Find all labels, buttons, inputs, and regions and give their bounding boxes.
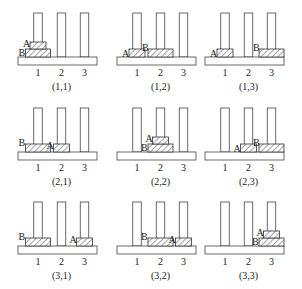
disk-A — [217, 49, 233, 57]
peg-number-3: 3 — [80, 257, 90, 267]
peg-1 — [221, 202, 230, 246]
state-caption: (3,2) — [141, 271, 181, 281]
base-board — [205, 246, 284, 254]
peg-number-2: 2 — [244, 163, 254, 173]
disk-B-label: B — [253, 138, 260, 148]
disk-B-label: B — [253, 43, 260, 53]
state-panel-1-3: AB123(1,3) — [187, 0, 287, 95]
disk-B — [26, 238, 51, 246]
base-board — [117, 246, 196, 254]
base-board — [18, 57, 97, 65]
state-panel-3-1: BA123(3,1) — [0, 189, 100, 284]
peg-2 — [244, 13, 253, 57]
state-panel-2-3: AB123(2,3) — [187, 95, 287, 190]
disk-B — [259, 49, 284, 57]
disk-A-label: A — [234, 144, 241, 154]
state-panel-2-2: BA123(2,2) — [99, 95, 199, 190]
puzzle-drawing — [0, 0, 100, 95]
peg-number-1: 1 — [220, 163, 230, 173]
peg-number-2: 2 — [57, 257, 67, 267]
state-caption: (3,1) — [42, 271, 82, 281]
peg-number-2: 2 — [156, 163, 166, 173]
disk-A — [264, 231, 280, 238]
puzzle-drawing — [187, 189, 287, 284]
peg-1 — [133, 108, 142, 152]
base-board — [205, 152, 284, 160]
state-caption: (1,2) — [141, 82, 181, 92]
peg-number-1: 1 — [220, 68, 230, 78]
disk-B — [259, 238, 284, 246]
disk-B-label: B — [252, 237, 259, 247]
state-caption: (2,1) — [42, 177, 82, 187]
puzzle-drawing — [99, 189, 199, 284]
state-panel-1-1: BA123(1,1) — [0, 0, 100, 95]
peg-number-2: 2 — [244, 68, 254, 78]
peg-number-2: 2 — [57, 163, 67, 173]
state-panel-3-2: BA123(3,2) — [99, 189, 199, 284]
disk-B — [148, 144, 173, 152]
peg-number-3: 3 — [80, 163, 90, 173]
peg-number-1: 1 — [33, 163, 43, 173]
state-panel-1-2: AB123(1,2) — [99, 0, 199, 95]
peg-number-1: 1 — [132, 257, 142, 267]
disk-B-label: B — [142, 43, 149, 53]
peg-number-1: 1 — [132, 163, 142, 173]
state-caption: (1,3) — [229, 82, 269, 92]
peg-number-2: 2 — [244, 257, 254, 267]
disk-A-label: A — [122, 49, 129, 59]
peg-number-3: 3 — [267, 257, 277, 267]
peg-3 — [80, 13, 89, 57]
disk-A-label: A — [146, 134, 153, 144]
puzzle-drawing — [99, 0, 199, 95]
state-caption: (3,3) — [229, 271, 269, 281]
base-board — [18, 246, 97, 254]
peg-number-1: 1 — [33, 68, 43, 78]
disk-B — [26, 49, 51, 57]
disk-B-label: B — [19, 138, 26, 148]
peg-3 — [80, 108, 89, 152]
peg-number-2: 2 — [156, 68, 166, 78]
peg-number-1: 1 — [132, 68, 142, 78]
puzzle-drawing — [187, 0, 287, 95]
disk-A-label: A — [169, 235, 176, 245]
peg-number-1: 1 — [33, 257, 43, 267]
disk-A-label: A — [70, 235, 77, 245]
disk-B-label: B — [19, 48, 26, 58]
puzzle-drawing — [0, 189, 100, 284]
base-board — [117, 152, 196, 160]
disk-B — [148, 49, 173, 57]
peg-number-2: 2 — [156, 257, 166, 267]
state-caption: (2,2) — [141, 177, 181, 187]
disk-A — [77, 238, 93, 246]
disk-B-label: B — [19, 232, 26, 242]
state-caption: (2,3) — [229, 177, 269, 187]
state-panel-3-3: BA123(3,3) — [187, 189, 287, 284]
state-caption: (1,1) — [42, 82, 82, 92]
peg-1 — [221, 108, 230, 152]
disk-A-label: A — [23, 39, 30, 49]
disk-A — [153, 137, 169, 144]
peg-number-3: 3 — [267, 163, 277, 173]
disk-B-label: B — [141, 143, 148, 153]
state-panel-2-1: BA123(2,1) — [0, 95, 100, 190]
peg-number-1: 1 — [220, 257, 230, 267]
peg-1 — [133, 202, 142, 246]
disk-A — [30, 42, 46, 49]
disk-A-label: A — [210, 49, 217, 59]
disk-B — [259, 144, 284, 152]
disk-A-label: A — [257, 228, 264, 238]
disk-B-label: B — [141, 232, 148, 242]
base-board — [18, 152, 97, 160]
peg-number-2: 2 — [57, 68, 67, 78]
peg-2 — [57, 202, 66, 246]
disk-A — [54, 144, 70, 152]
disk-A-label: A — [47, 141, 54, 151]
peg-number-3: 3 — [80, 68, 90, 78]
peg-2 — [57, 13, 66, 57]
peg-number-3: 3 — [267, 68, 277, 78]
